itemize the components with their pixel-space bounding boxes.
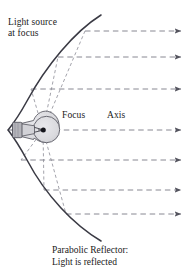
focus-point-marker (41, 128, 46, 133)
figure-caption: Parabolic Reflector: Light is reflected (52, 245, 128, 268)
figure-caption-line2: Light is reflected (52, 257, 128, 268)
figure-caption-line1: Parabolic Reflector: (52, 245, 128, 255)
focus-label: Focus (62, 110, 85, 121)
bulb-neck-icon (22, 124, 35, 136)
parabolic-reflector-figure: Light source at focus Focus Axis Parabol… (0, 0, 189, 268)
light-source-label-line1: Light source (8, 17, 57, 27)
axis-label: Axis (107, 110, 125, 121)
bulb-base-icon (13, 122, 23, 137)
light-source-label: Light source at focus (8, 17, 57, 39)
bulb-head-icon (33, 116, 59, 142)
light-source-label-line2: at focus (8, 28, 57, 39)
light-bulb (13, 111, 60, 143)
diagram-canvas (0, 0, 189, 268)
